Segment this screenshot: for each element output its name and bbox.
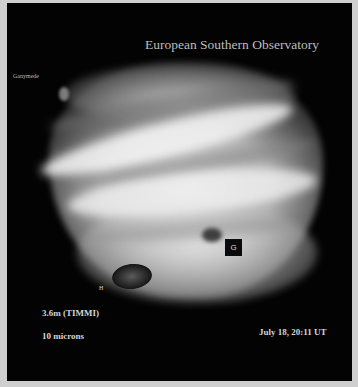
wavelength-label: 10 microns <box>42 331 84 341</box>
impact-label-h: H <box>99 285 103 291</box>
impact-spot-g <box>202 228 222 242</box>
image-frame: G European Southern Observatory Ganymede… <box>0 0 358 387</box>
photo-canvas: G European Southern Observatory Ganymede… <box>7 3 352 381</box>
instrument-label: 3.6m (TIMMI) <box>42 308 99 318</box>
ganymede-label: Ganymede <box>13 73 39 79</box>
impact-label-g: G <box>225 239 242 256</box>
timestamp-label: July 18, 20:11 UT <box>259 327 327 337</box>
ganymede-moon <box>59 87 69 101</box>
observatory-title: European Southern Observatory <box>145 37 319 53</box>
